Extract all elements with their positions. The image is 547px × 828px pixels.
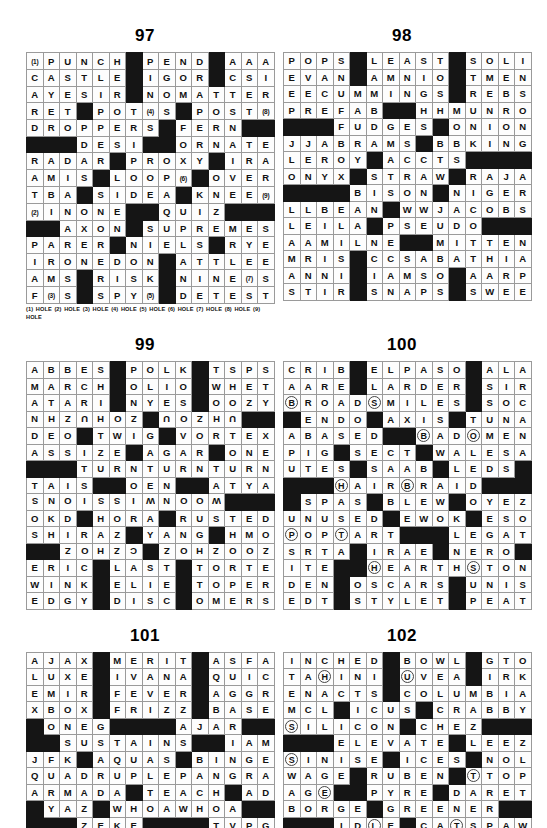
grid-cell-letter[interactable]: S	[76, 86, 93, 103]
grid-cell-letter[interactable]: E	[27, 685, 44, 702]
grid-cell-block[interactable]	[109, 395, 126, 412]
grid-cell-letter[interactable]: N	[515, 560, 532, 577]
grid-cell-inverted-letter[interactable]: Z	[258, 543, 275, 560]
grid-cell-block[interactable]	[300, 119, 317, 136]
grid-cell-block[interactable]	[126, 718, 143, 735]
grid-cell-letter[interactable]: E	[142, 186, 159, 203]
grid-cell-block[interactable]	[43, 136, 60, 153]
grid-cell-letter[interactable]: L	[109, 560, 126, 577]
grid-cell-letter[interactable]: I	[449, 477, 466, 494]
grid-cell-letter[interactable]: A	[465, 784, 482, 801]
grid-cell-letter[interactable]: C	[383, 251, 400, 268]
grid-cell-letter[interactable]: S	[366, 168, 383, 185]
grid-cell-block[interactable]	[159, 120, 176, 137]
grid-cell-letter[interactable]: S	[258, 362, 275, 379]
grid-cell-block[interactable]	[449, 284, 466, 301]
grid-cell-block[interactable]	[43, 817, 60, 828]
grid-cell-letter[interactable]: R	[175, 685, 192, 702]
grid-cell-letter[interactable]: T	[192, 576, 209, 593]
grid-cell-block[interactable]	[109, 362, 126, 379]
grid-cell-letter[interactable]: E	[159, 237, 176, 254]
grid-cell-letter[interactable]: E	[284, 685, 301, 702]
grid-cell-letter[interactable]: R	[498, 669, 515, 686]
grid-cell-letter[interactable]: N	[258, 461, 275, 478]
grid-cell-block[interactable]	[515, 461, 532, 478]
grid-cell-letter[interactable]: O	[498, 560, 515, 577]
grid-cell-block[interactable]	[416, 234, 433, 251]
grid-cell-letter[interactable]: I	[317, 251, 334, 268]
grid-cell-letter[interactable]: R	[383, 477, 400, 494]
grid-cell-letter[interactable]: O	[432, 69, 449, 86]
grid-cell-letter[interactable]: D	[449, 784, 466, 801]
grid-cell-block[interactable]	[399, 527, 416, 544]
grid-cell-letter[interactable]: S	[498, 444, 515, 461]
grid-cell-letter[interactable]: N	[482, 102, 499, 119]
grid-cell-letter[interactable]: M	[43, 169, 60, 186]
grid-cell-letter[interactable]: P	[159, 169, 176, 186]
grid-cell-block[interactable]	[333, 576, 350, 593]
grid-cell-letter[interactable]: R	[192, 136, 209, 153]
grid-cell-letter[interactable]: K	[515, 669, 532, 686]
grid-cell-letter[interactable]: S	[60, 270, 77, 287]
grid-cell-letter[interactable]: M	[383, 69, 400, 86]
grid-cell-block[interactable]	[300, 185, 317, 202]
grid-cell-letter[interactable]: A	[60, 186, 77, 203]
grid-cell-letter[interactable]: S	[142, 560, 159, 577]
grid-cell-letter[interactable]: B	[317, 201, 334, 218]
grid-cell-block[interactable]	[515, 801, 532, 818]
grid-cell-letter[interactable]: W	[416, 201, 433, 218]
grid-cell-block[interactable]	[192, 395, 209, 412]
grid-cell-letter[interactable]: O	[465, 494, 482, 511]
grid-cell-letter[interactable]: P	[175, 220, 192, 237]
grid-cell-letter[interactable]: E	[383, 817, 400, 828]
grid-cell-letter[interactable]: A	[126, 735, 143, 752]
grid-cell-letter[interactable]: V	[126, 669, 143, 686]
grid-cell-letter[interactable]: S	[515, 86, 532, 103]
grid-cell-letter[interactable]: R	[126, 120, 143, 137]
grid-cell-letter[interactable]: L	[350, 234, 367, 251]
grid-cell-block[interactable]	[241, 718, 258, 735]
grid-cell-block[interactable]	[258, 411, 275, 428]
grid-cell-letter[interactable]: S	[258, 220, 275, 237]
grid-cell-letter[interactable]: S	[449, 751, 466, 768]
grid-cell-letter[interactable]: E	[225, 270, 242, 287]
grid-cell-letter[interactable]: C	[416, 152, 433, 169]
grid-cell-letter[interactable]: A	[225, 136, 242, 153]
grid-cell-letter[interactable]: Z	[159, 702, 176, 719]
grid-container[interactable]: INCHEDBOWLGTOTAHINIUVEAIRKENACTSCOLUMBIA…	[283, 652, 521, 828]
grid-cell-letter[interactable]: N	[383, 718, 400, 735]
grid-cell-letter[interactable]: E	[208, 220, 225, 237]
grid-cell-letter[interactable]: X	[76, 652, 93, 669]
grid-cell-letter[interactable]: E	[498, 234, 515, 251]
grid-cell-letter[interactable]: G	[317, 768, 334, 785]
grid-cell-letter[interactable]: R	[192, 444, 209, 461]
grid-cell-letter[interactable]: A	[498, 817, 515, 828]
grid-cell-letter[interactable]: R	[241, 593, 258, 610]
grid-cell-block[interactable]	[465, 362, 482, 379]
grid-cell-block[interactable]	[432, 119, 449, 136]
grid-cell-letter[interactable]: G	[241, 685, 258, 702]
grid-cell-letter[interactable]: T	[350, 685, 367, 702]
grid-cell-letter[interactable]: O	[498, 751, 515, 768]
grid-cell-block[interactable]	[498, 152, 515, 169]
grid-cell-letter[interactable]: T	[60, 103, 77, 120]
grid-cell-letter[interactable]: O	[60, 120, 77, 137]
grid-cell-letter[interactable]: P	[284, 53, 301, 70]
grid-cell-letter[interactable]: G	[241, 751, 258, 768]
grid-cell-letter[interactable]: X	[76, 702, 93, 719]
grid-cell-letter[interactable]: G	[159, 444, 176, 461]
grid-cell-letter[interactable]: A	[126, 560, 143, 577]
grid-cell-letter[interactable]: V	[225, 169, 242, 186]
grid-cell-letter[interactable]: T	[317, 543, 334, 560]
grid-cell-block[interactable]	[60, 136, 77, 153]
grid-cell-letter[interactable]: I	[383, 86, 400, 103]
grid-cell-letter[interactable]: U	[175, 203, 192, 220]
grid-cell-letter[interactable]: A	[43, 477, 60, 494]
grid-cell-letter[interactable]: L	[159, 362, 176, 379]
grid-cell-block[interactable]	[109, 153, 126, 170]
grid-cell-block[interactable]	[93, 477, 110, 494]
grid-cell-letter[interactable]: A	[317, 135, 334, 152]
grid-cell-letter[interactable]: E	[498, 784, 515, 801]
grid-cell-letter[interactable]: R	[192, 70, 209, 87]
grid-cell-inverted-letter[interactable]: O	[76, 543, 93, 560]
